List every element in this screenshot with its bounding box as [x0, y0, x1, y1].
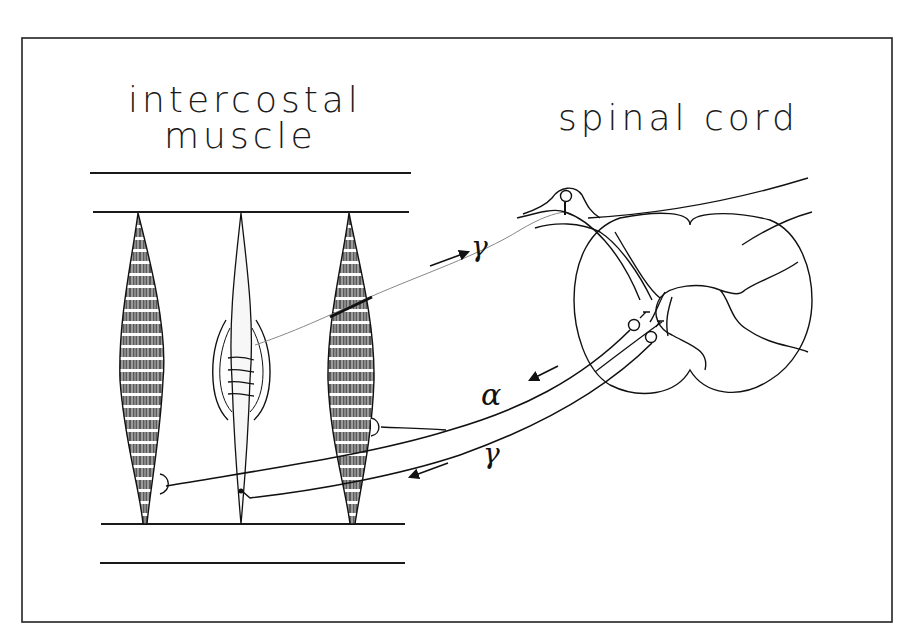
- alpha-direction-arrow: [530, 366, 558, 380]
- neuromuscular-diagram: intercostal muscle spinal cord: [0, 0, 917, 644]
- intrafusal-fiber: [231, 213, 252, 524]
- gamma-motor-fiber: [242, 343, 652, 498]
- dorsal-root-upper-branch: [588, 178, 808, 218]
- dorsal-root: [517, 210, 640, 300]
- spinal-cord: [517, 178, 812, 393]
- motor-neurons: [629, 312, 665, 343]
- grey-matter: [615, 232, 808, 370]
- gamma-motor-neuron: [646, 332, 657, 343]
- ventral-horn-channel: [650, 292, 672, 336]
- synapse-terminal-1: [640, 312, 650, 318]
- gamma-efferent-label: γ: [483, 437, 500, 470]
- muscle-label-line2: muscle: [164, 115, 317, 156]
- motor-end-plate-right: [371, 418, 379, 436]
- afferent-fiber: [255, 212, 565, 345]
- extrafusal-fiber-right: [328, 213, 374, 524]
- spinal-cord-label: spinal cord: [558, 97, 799, 138]
- alpha-branch-to-right-fiber: [381, 427, 446, 430]
- muscle-label-line1: intercostal: [128, 79, 362, 120]
- extrafusal-fiber-left: [120, 213, 164, 524]
- motor-end-plate-left: [160, 474, 168, 494]
- alpha-label: α: [481, 377, 501, 412]
- alpha-motor-neuron: [629, 320, 640, 331]
- gamma-afferent-label: γ: [471, 230, 488, 263]
- sensory-neuron-cell-body: [561, 191, 572, 202]
